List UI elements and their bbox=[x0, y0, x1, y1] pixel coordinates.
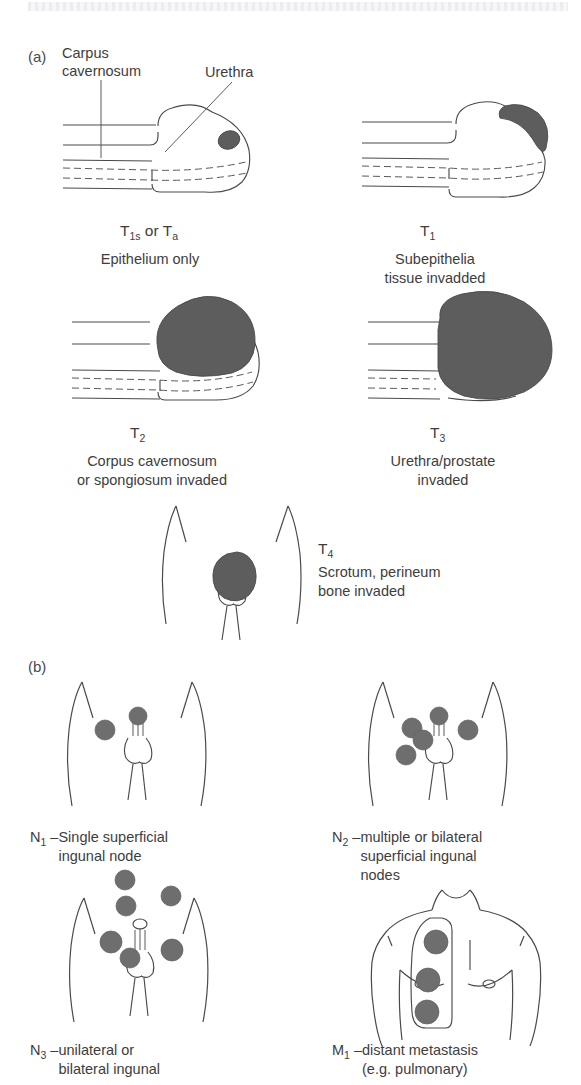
lymph-node bbox=[430, 707, 448, 725]
metastasis-node bbox=[415, 1000, 439, 1024]
lymph-node bbox=[161, 939, 183, 961]
penis-diagram-t1 bbox=[362, 102, 548, 197]
lymph-node bbox=[161, 886, 181, 906]
penis-diagram-t2 bbox=[72, 296, 259, 400]
lymph-node bbox=[458, 720, 478, 740]
stage-caption-n2: multiple or bilateral superficial inguna… bbox=[360, 828, 482, 885]
stage-caption-t3: Urethra/prostate invaded bbox=[348, 452, 538, 490]
lymph-node bbox=[120, 948, 140, 968]
stage-caption-n3: unilateral or bilateral ingunal bbox=[58, 1041, 160, 1079]
penis-diagram-t1s bbox=[63, 80, 250, 192]
stage-caption-n1: Single superficial ingunal node bbox=[58, 828, 168, 866]
stage-caption-t1: Subepithelia tissue invadded bbox=[345, 250, 525, 288]
stage-code-t4: T4 bbox=[318, 540, 333, 560]
dash-n2: – bbox=[348, 829, 360, 845]
lymph-node bbox=[129, 707, 147, 725]
t-stage-diagrams bbox=[0, 0, 581, 640]
metastasis-node bbox=[424, 930, 448, 954]
torso-diagram-m1 bbox=[371, 890, 540, 1046]
penis-diagram-t3 bbox=[368, 291, 552, 400]
figure-page: (a) Carpus cavernosum Urethra bbox=[0, 0, 581, 1085]
lymph-node bbox=[413, 730, 433, 750]
lymph-node bbox=[95, 720, 115, 740]
stage-caption-m1: distant metastasis (e.g. pulmonary) bbox=[362, 1041, 478, 1079]
lymph-node bbox=[116, 896, 136, 916]
groin-diagram-n2 bbox=[369, 682, 507, 806]
stage-caption-t1s-ta: Epithelium only bbox=[55, 250, 245, 269]
stage-caption-t4: Scrotum, perineum bone invaded bbox=[318, 563, 548, 601]
stage-label-n2: N2 – multiple or bilateral superficial i… bbox=[332, 828, 482, 885]
groin-diagram-n3 bbox=[70, 870, 208, 1022]
stage-label-n1: N1 – Single superficial ingunal node bbox=[30, 828, 168, 866]
metastasis-node bbox=[416, 968, 440, 992]
lymph-node bbox=[396, 745, 416, 765]
tumor-t1 bbox=[499, 105, 548, 152]
tumor-t1s bbox=[216, 128, 243, 152]
stage-code-t3: T3 bbox=[430, 424, 445, 444]
stage-label-m1: M1 – distant metastasis (e.g. pulmonary) bbox=[332, 1041, 478, 1079]
stage-label-n3: N3 – unilateral or bilateral ingunal bbox=[30, 1041, 160, 1079]
stage-code-t1: T1 bbox=[420, 222, 435, 242]
groin-diagram-t4 bbox=[162, 506, 301, 640]
lymph-node bbox=[100, 931, 122, 953]
stage-code-t1s-ta: T1s or Ta bbox=[120, 222, 178, 242]
groin-diagram-n1 bbox=[68, 682, 206, 806]
tumor-t3 bbox=[438, 291, 552, 399]
lymph-node bbox=[115, 870, 135, 890]
dash-m1: – bbox=[350, 1042, 362, 1058]
stage-caption-t2: Corpus cavernosum or spongiosum invaded bbox=[42, 452, 262, 490]
dash-n3: – bbox=[46, 1042, 58, 1058]
stage-code-t2: T2 bbox=[130, 424, 145, 444]
tumor-t4 bbox=[213, 552, 256, 601]
tumor-t2 bbox=[157, 296, 255, 376]
dash-n1: – bbox=[46, 829, 58, 845]
